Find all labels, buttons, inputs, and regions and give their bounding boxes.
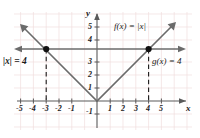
x-tick-label--3: -3 <box>42 105 49 113</box>
intersection-point-left <box>43 46 49 52</box>
y-tick-label-3: 3 <box>88 58 92 66</box>
x-tick-label-4: 4 <box>146 105 150 113</box>
g-equation-label: g(x) = 4 <box>152 57 182 66</box>
coordinate-plane-svg <box>0 0 200 138</box>
x-tick-label-1: 1 <box>108 105 112 113</box>
y-tick-label-5: 5 <box>88 23 92 31</box>
y-tick-label-1: 1 <box>88 84 92 92</box>
x-tick-label--5: -5 <box>16 105 23 113</box>
y-tick-label--1: -1 <box>86 108 93 116</box>
x-axis-label: x <box>186 104 191 113</box>
solution-equation-label: |x| = 4 <box>3 57 27 67</box>
x-tick-label--2: -2 <box>55 105 62 113</box>
g-right-arrowhead <box>178 46 186 52</box>
absolute-value-graph-figure: -5 -4 -3 -2 -1 1 2 3 4 5 5 4 3 2 1 -1 y … <box>0 0 200 138</box>
series-g-horizontal-line <box>14 46 186 52</box>
x-tick-label-2: 2 <box>121 105 125 113</box>
y-tick-label-2: 2 <box>88 71 92 79</box>
f-equation-label: f(x) = |x| <box>114 22 146 31</box>
x-tick-label--4: -4 <box>29 105 36 113</box>
x-axis-arrowhead <box>179 98 186 104</box>
y-axis-label: y <box>86 9 90 18</box>
grid-lines <box>14 12 192 130</box>
intersection-point-right <box>146 46 152 52</box>
x-tick-label-3: 3 <box>134 105 138 113</box>
y-tick-label-4: 4 <box>88 36 92 44</box>
g-left-arrowhead <box>14 46 22 52</box>
x-tick-label-5: 5 <box>159 105 163 113</box>
x-tick-label--1: -1 <box>68 105 75 113</box>
